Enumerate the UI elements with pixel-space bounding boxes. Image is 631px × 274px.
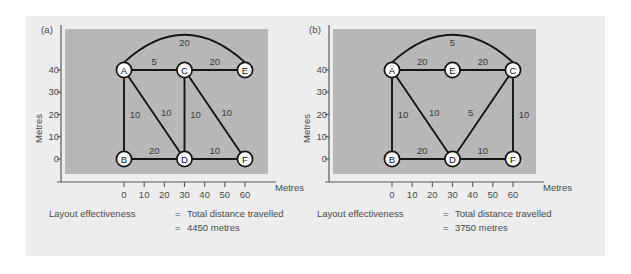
node-label: D xyxy=(449,154,456,165)
caption-line2-right: 4450 metres xyxy=(187,222,240,233)
graph-node[interactable]: D xyxy=(177,151,192,166)
node-label: C xyxy=(510,65,517,76)
caption-line1-right: Total distance travelled xyxy=(187,208,284,219)
y-tick-label: 40 xyxy=(33,64,59,75)
caption-line1-equals: = xyxy=(175,208,181,219)
edge-weight-label: 5 xyxy=(152,56,157,67)
caption-line2-equals: = xyxy=(175,222,181,233)
graph-svg: 2020510105102010ABEDCF xyxy=(295,0,585,240)
edge-weight-label: 20 xyxy=(209,56,220,67)
y-tick-label: 0 xyxy=(301,153,327,164)
y-tick-label: 10 xyxy=(33,131,59,142)
graph-svg: 52020101010102010ABCDEF xyxy=(27,0,317,240)
node-label: E xyxy=(449,65,455,76)
edges-group xyxy=(124,35,245,159)
graph-node[interactable]: A xyxy=(116,62,131,77)
graph-node[interactable]: C xyxy=(177,62,192,77)
y-tick-label: 40 xyxy=(301,64,327,75)
y-tick-label: 10 xyxy=(301,131,327,142)
node-label: A xyxy=(121,65,128,76)
y-tick-label: 20 xyxy=(301,109,327,120)
caption-line1-right: Total distance travelled xyxy=(455,208,552,219)
edge-weight-label: 20 xyxy=(477,56,488,67)
node-label: F xyxy=(242,154,248,165)
caption-line1-left: Layout effectiveness xyxy=(317,208,403,219)
graph-node[interactable]: F xyxy=(505,151,520,166)
caption-line2-right: 3750 metres xyxy=(455,222,508,233)
edge-labels-group: 52020101010102010 xyxy=(130,37,232,156)
figure-canvas: (a)MetresMetres52020101010102010ABCDEF01… xyxy=(0,0,631,274)
node-label: D xyxy=(181,154,188,165)
graph-node[interactable]: E xyxy=(237,62,252,77)
edge-weight-label: 10 xyxy=(477,145,488,156)
edge-labels-group: 2020510105102010 xyxy=(398,37,530,156)
y-tick-label: 30 xyxy=(301,86,327,97)
edge-weight-label: 10 xyxy=(519,109,530,120)
edge-weight-label: 20 xyxy=(417,56,428,67)
caption-line1-equals: = xyxy=(443,208,449,219)
edge-weight-label: 10 xyxy=(130,109,141,120)
edge-weight-label: 10 xyxy=(398,109,409,120)
graph-node[interactable]: C xyxy=(505,62,520,77)
graph-node[interactable]: F xyxy=(237,151,252,166)
node-label: B xyxy=(389,154,395,165)
edge-weight-label: 10 xyxy=(161,107,172,118)
edge-weight-label: 20 xyxy=(149,145,160,156)
y-tick-label: 20 xyxy=(33,109,59,120)
edge-weight-label: 20 xyxy=(417,145,428,156)
caption-line2-equals: = xyxy=(443,222,449,233)
y-tick-label: 0 xyxy=(33,153,59,164)
graph-node[interactable]: B xyxy=(384,151,399,166)
panel-a: (a)MetresMetres52020101010102010ABCDEF01… xyxy=(27,0,317,240)
y-tick-label: 30 xyxy=(33,86,59,97)
edge-weight-label: 10 xyxy=(190,109,201,120)
edges-group xyxy=(392,35,513,159)
node-label: B xyxy=(121,154,127,165)
edge-weight-label: 10 xyxy=(209,145,220,156)
edge-weight-label: 10 xyxy=(221,107,232,118)
x-tick-label: 60 xyxy=(231,189,259,200)
graph-node[interactable]: A xyxy=(384,62,399,77)
caption-line1-left: Layout effectiveness xyxy=(49,208,135,219)
edge-weight-label: 20 xyxy=(179,37,190,48)
node-label: A xyxy=(389,65,396,76)
graph-edge xyxy=(457,76,509,152)
panel-b: (b)MetresMetres2020510105102010ABEDCF010… xyxy=(295,0,585,240)
node-label: E xyxy=(242,65,248,76)
edge-weight-label: 5 xyxy=(468,107,473,118)
graph-node[interactable]: D xyxy=(445,151,460,166)
edge-weight-label: 5 xyxy=(450,37,455,48)
node-label: C xyxy=(181,65,188,76)
x-tick-label: 60 xyxy=(499,189,527,200)
edge-weight-label: 10 xyxy=(429,107,440,118)
graph-node[interactable]: B xyxy=(116,151,131,166)
node-label: F xyxy=(510,154,516,165)
graph-node[interactable]: E xyxy=(445,62,460,77)
